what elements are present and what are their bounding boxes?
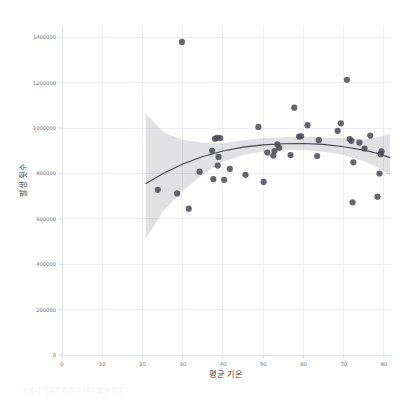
scatter-point [316,137,322,143]
x-tick-label: 0 [60,361,63,367]
scatter-point [186,206,192,212]
y-tick-label: 0 [53,352,56,358]
scatter-point [348,138,354,144]
scatter-regression-plot: 0102030405060708002000004000006000008000… [0,0,416,399]
x-tick-label: 20 [139,361,146,367]
scatter-point [227,166,233,172]
scatter-point [264,150,270,156]
scatter-point [344,77,350,83]
y-tick-label: 600000 [36,216,56,222]
clipped-caption: 서울시 기온과 따릉이 대여 발생 횟수 [22,386,302,397]
scatter-point [197,169,203,175]
scatter-point [217,135,223,141]
x-tick-label: 50 [260,361,267,367]
x-tick-label: 70 [340,361,347,367]
x-tick-label: 30 [179,361,186,367]
x-tick-label: 60 [300,361,307,367]
scatter-point [356,140,362,146]
scatter-point [362,145,368,151]
x-tick-label: 10 [99,361,106,367]
x-tick-label: 40 [220,361,227,367]
scatter-point [287,152,293,158]
scatter-point [210,176,216,182]
scatter-point [255,124,261,130]
scatter-point [374,194,380,200]
scatter-point [179,39,185,45]
scatter-point [221,177,227,183]
scatter-point [242,172,248,178]
scatter-point [276,145,282,151]
scatter-point [349,199,355,205]
scatter-point [215,162,221,168]
scatter-point [314,153,320,159]
scatter-point [367,132,373,138]
scatter-point [209,148,215,154]
scatter-point [261,179,267,185]
x-tick-label: 80 [381,361,388,367]
y-tick-label: 1400000 [33,34,56,40]
scatter-point [215,154,221,160]
y-tick-label: 400000 [36,261,56,267]
scatter-point [338,120,344,126]
scatter-point [335,128,341,134]
scatter-point [174,190,180,196]
scatter-point [378,148,384,154]
scatter-point [291,105,297,111]
x-axis-title: 평균 기온 [209,369,244,379]
scatter-point [155,187,161,193]
scatter-point [304,122,310,128]
scatter-point [298,133,304,139]
y-axis-title: 발생 횟수 [18,163,28,198]
scatter-point [376,170,382,176]
chart-figure: 0102030405060708002000004000006000008000… [0,0,416,399]
y-tick-label: 800000 [36,170,56,176]
scatter-point [350,159,356,165]
y-tick-label: 200000 [36,307,56,313]
y-tick-label: 1200000 [33,80,56,86]
y-tick-label: 1000000 [33,125,56,131]
